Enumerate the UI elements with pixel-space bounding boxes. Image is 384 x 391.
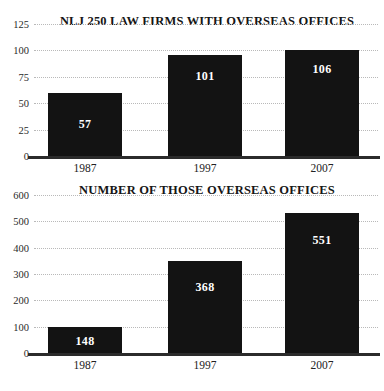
xlabel-1997-firms: 1997 <box>194 162 217 174</box>
xlabel-1987-firms: 1987 <box>74 162 97 174</box>
ytick-label-300: 300 <box>13 270 29 281</box>
ytick-label-100: 100 <box>13 46 29 57</box>
ytick-label-50: 50 <box>19 99 30 110</box>
ytick-label-600: 600 <box>13 191 29 202</box>
xlabel-1997-offices: 1997 <box>194 359 217 371</box>
bar-value-label-1987-offices: 148 <box>48 334 122 349</box>
chart-panel-offices: NUMBER OF THOSE OVERSEAS OFFICES 600 500… <box>0 182 384 391</box>
xlabel-1987-offices: 1987 <box>74 359 97 371</box>
chart-panel-firms: NLJ 250 LAW FIRMS WITH OVERSEAS OFFICES … <box>0 0 384 182</box>
plot-area-firms: 125 100 75 50 25 0 57 101 <box>34 24 378 156</box>
plot-area-offices: 600 500 400 300 200 100 0 148 <box>34 195 378 353</box>
two-panel-bar-chart-figure: NLJ 250 LAW FIRMS WITH OVERSEAS OFFICES … <box>0 0 384 391</box>
bar-value-label-2007-offices: 551 <box>285 233 359 248</box>
x-axis-labels-offices: 1987 1997 2007 <box>34 359 378 375</box>
bar-value-label-1997-offices: 368 <box>168 280 242 295</box>
gridline-125: 125 <box>34 24 378 25</box>
x-axis-line-firms <box>28 156 380 159</box>
bar-2007-offices: 551 <box>285 213 359 353</box>
ytick-label-75: 75 <box>19 73 30 84</box>
ytick-label-25: 25 <box>19 125 30 136</box>
ytick-label-200: 200 <box>13 296 29 307</box>
ytick-label-400: 400 <box>13 243 29 254</box>
x-axis-line-offices <box>28 353 380 356</box>
bar-2007-firms: 106 <box>285 50 359 156</box>
xlabel-2007-firms: 2007 <box>311 162 334 174</box>
bar-1997-firms: 101 <box>168 55 242 156</box>
bar-1987-offices: 148 <box>48 327 122 353</box>
ytick-label-125: 125 <box>13 20 29 31</box>
ytick-label-500: 500 <box>13 217 29 228</box>
ytick-label-100: 100 <box>13 322 29 333</box>
xlabel-2007-offices: 2007 <box>311 359 334 371</box>
bar-1997-offices: 368 <box>168 261 242 353</box>
bar-1987-firms: 57 <box>48 93 122 156</box>
gridline-600: 600 <box>34 195 378 196</box>
bar-value-label-1997-firms: 101 <box>168 69 242 84</box>
bar-value-label-2007-firms: 106 <box>285 62 359 77</box>
x-axis-labels-firms: 1987 1997 2007 <box>34 162 378 178</box>
bar-value-label-1987-firms: 57 <box>48 117 122 132</box>
